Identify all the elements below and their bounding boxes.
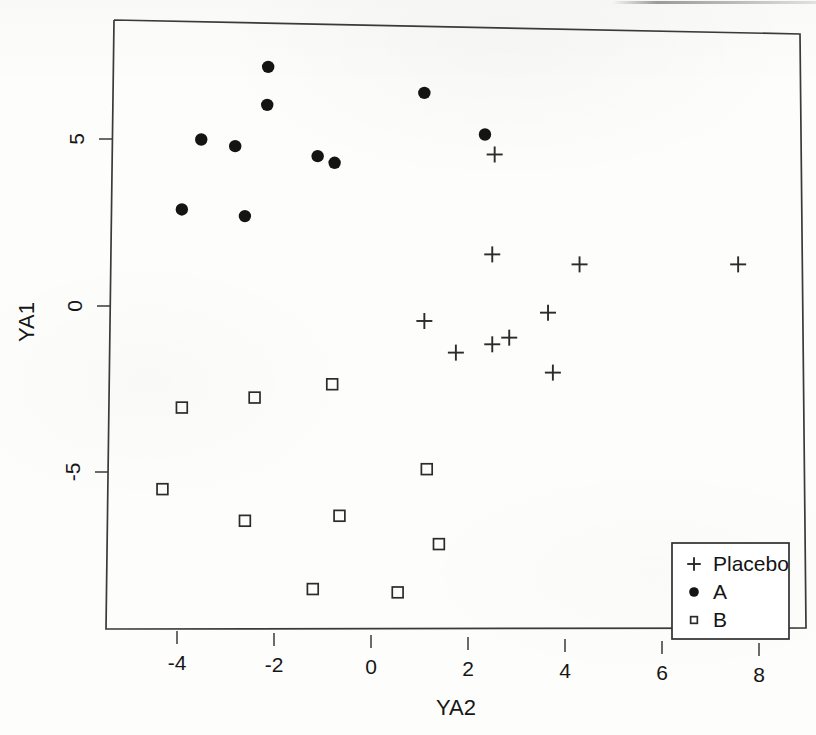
x-tick-label-5: 6 — [656, 661, 668, 684]
legend-label-a: A — [713, 580, 727, 603]
data-point-b — [421, 464, 432, 475]
data-point-a — [229, 140, 241, 152]
data-point-a — [261, 99, 273, 111]
x-axis-title: YA2 — [436, 695, 476, 720]
x-tick-label-1: -2 — [265, 653, 284, 676]
legend-marker-a — [689, 587, 699, 597]
data-point-a — [239, 210, 251, 222]
x-tick-label-3: 2 — [462, 657, 474, 680]
data-point-placebo — [730, 256, 746, 272]
data-point-a — [195, 133, 207, 145]
data-point-placebo — [501, 330, 517, 346]
data-point-a — [262, 61, 274, 73]
plot-frame — [106, 20, 806, 629]
data-point-b — [157, 484, 168, 495]
y-tick-labels: 5 0 -5 — [61, 133, 88, 481]
data-point-a — [311, 150, 323, 162]
legend: PlaceboAB — [672, 543, 789, 639]
data-point-a — [328, 157, 340, 169]
data-point-placebo — [487, 146, 503, 162]
data-point-placebo — [484, 336, 500, 352]
data-point-b — [334, 510, 345, 521]
data-point-b — [392, 587, 403, 598]
x-tick-labels: -4 -2 0 2 4 6 8 — [168, 651, 765, 686]
series-a — [176, 61, 492, 223]
x-tick-label-0: -4 — [168, 651, 187, 674]
data-point-b — [434, 539, 445, 550]
data-point-b — [249, 392, 260, 403]
series-placebo — [416, 146, 746, 380]
x-tick-label-2: 0 — [365, 655, 377, 678]
data-point-a — [479, 128, 491, 140]
data-point-placebo — [448, 345, 464, 361]
data-point-b — [307, 584, 318, 595]
y-tick-label-2: -5 — [61, 463, 84, 482]
data-point-a — [418, 87, 430, 99]
series-b — [157, 379, 444, 598]
data-point-layer — [157, 61, 746, 598]
data-point-placebo — [484, 246, 500, 262]
data-point-b — [176, 402, 187, 413]
data-point-placebo — [416, 313, 432, 329]
data-point-a — [176, 203, 188, 215]
y-tick-label-0: 5 — [65, 133, 88, 145]
legend-label-placebo: Placebo — [713, 552, 789, 575]
data-point-placebo — [540, 305, 556, 321]
chart-canvas: -4 -2 0 2 4 6 8 5 0 -5 YA2 YA1 PlaceboAB — [0, 0, 816, 735]
scatter-plot-figure: -4 -2 0 2 4 6 8 5 0 -5 YA2 YA1 PlaceboAB — [0, 0, 816, 735]
y-axis-title: YA1 — [14, 302, 39, 342]
y-tick-label-1: 0 — [63, 300, 86, 312]
x-tick-label-4: 4 — [559, 659, 571, 682]
x-tick-label-6: 8 — [753, 663, 765, 686]
data-point-b — [240, 515, 251, 526]
data-point-placebo — [572, 256, 588, 272]
data-point-placebo — [545, 365, 561, 381]
data-point-b — [327, 379, 338, 390]
legend-label-b: B — [713, 608, 727, 631]
